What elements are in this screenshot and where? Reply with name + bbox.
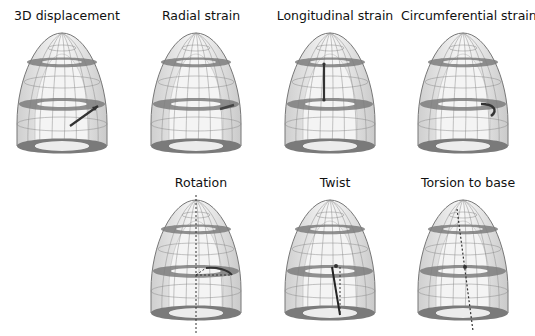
panel-title: Torsion to base <box>401 175 535 190</box>
panel-twist: Twist <box>268 175 402 335</box>
panel-rotation: Rotation <box>134 175 268 335</box>
lv-shell-diagram <box>134 28 268 168</box>
panel-title: Rotation <box>134 175 268 190</box>
lv-shell-diagram <box>268 28 402 168</box>
lv-shell-diagram <box>401 28 535 168</box>
lv-shell-diagram <box>134 195 268 335</box>
panel-torsion-to-base: Torsion to base <box>401 175 535 335</box>
panel-longitudinal-strain: Longitudinal strain <box>268 8 402 168</box>
lv-shell-diagram <box>401 195 535 335</box>
lv-shell-diagram <box>0 28 134 168</box>
panel-title: Circumferential strain <box>401 8 535 23</box>
panel-title: Twist <box>268 175 402 190</box>
panel-radial-strain: Radial strain <box>134 8 268 168</box>
panel-3d-displacement: 3D displacement <box>0 8 134 168</box>
panel-title: Longitudinal strain <box>268 8 402 23</box>
panel-title: Radial strain <box>134 8 268 23</box>
lv-shell-diagram <box>268 195 402 335</box>
panel-circumferential-strain: Circumferential strain <box>401 8 535 168</box>
panel-title: 3D displacement <box>0 8 134 23</box>
